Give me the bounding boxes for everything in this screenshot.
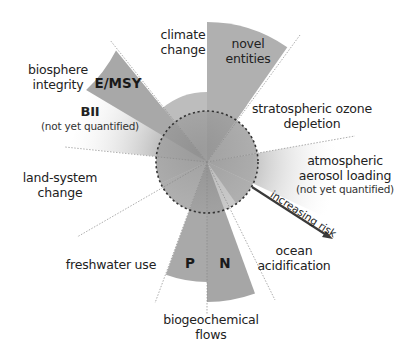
label-n: N xyxy=(219,255,230,271)
label-biosphere: biosphere integrity xyxy=(28,62,88,92)
label-climate-change: climate change xyxy=(161,27,206,57)
label-biogeochemical: biogeochemical flows xyxy=(163,312,259,342)
label-bii: BII xyxy=(81,104,100,120)
label-freshwater: freshwater use xyxy=(66,257,156,272)
label-ocean: ocean acidification xyxy=(257,243,330,273)
label-p: P xyxy=(185,255,195,271)
label-emsy: E/MSY xyxy=(94,75,141,91)
label-novel-entities: novel entities xyxy=(226,36,271,66)
label-bii-note: (not yet quantified) xyxy=(41,120,139,133)
label-land-system: land-system change xyxy=(23,170,98,200)
label-aerosol: atmospheric aerosol loading (not yet qua… xyxy=(296,153,394,196)
label-ozone: stratospheric ozone depletion xyxy=(252,101,372,131)
planetary-boundaries-diagram: climate change novel entities stratosphe… xyxy=(0,0,412,354)
